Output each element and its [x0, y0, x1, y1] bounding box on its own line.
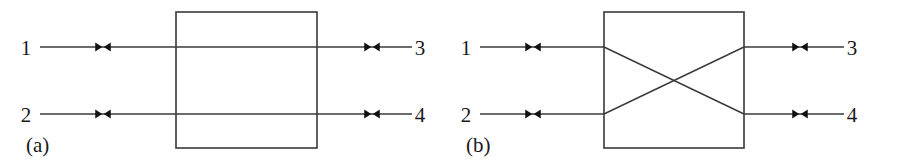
- port-row-a-1: 13: [21, 36, 426, 60]
- port-row-b-2: 24: [461, 103, 858, 127]
- subfigure-b: 1324(b): [461, 12, 858, 157]
- port-label-3: 3: [847, 36, 858, 60]
- arrowhead-left-icon: [534, 110, 541, 119]
- port-row-a-2: 24: [21, 103, 426, 127]
- port-label-4: 4: [415, 103, 426, 127]
- arrowhead-left-icon: [373, 43, 380, 52]
- port-label-1: 1: [461, 36, 472, 60]
- arrowhead-right-icon: [525, 43, 532, 52]
- four-port-network-figure: 1324(a)1324(b): [0, 0, 901, 162]
- arrowhead-left-icon: [104, 43, 111, 52]
- subfigure-caption-a: (a): [26, 133, 49, 157]
- subfigure-a: 1324(a): [21, 12, 426, 157]
- port-label-2: 2: [21, 103, 32, 127]
- arrowhead-right-icon: [95, 43, 102, 52]
- network-box-a: [176, 12, 317, 148]
- arrowhead-left-icon: [801, 43, 808, 52]
- arrowhead-left-icon: [104, 110, 111, 119]
- port-label-3: 3: [415, 36, 426, 60]
- arrowhead-right-icon: [792, 110, 799, 119]
- subfigure-caption-b: (b): [466, 133, 491, 157]
- arrowhead-left-icon: [534, 43, 541, 52]
- arrowhead-left-icon: [373, 110, 380, 119]
- arrowhead-left-icon: [801, 110, 808, 119]
- port-label-1: 1: [21, 36, 32, 60]
- arrowhead-right-icon: [95, 110, 102, 119]
- arrowhead-right-icon: [364, 110, 371, 119]
- figure-container: 1324(a)1324(b): [0, 0, 901, 162]
- port-label-2: 2: [461, 103, 472, 127]
- port-label-4: 4: [847, 103, 858, 127]
- port-row-b-1: 13: [461, 36, 858, 60]
- arrowhead-right-icon: [525, 110, 532, 119]
- arrowhead-right-icon: [364, 43, 371, 52]
- arrowhead-right-icon: [792, 43, 799, 52]
